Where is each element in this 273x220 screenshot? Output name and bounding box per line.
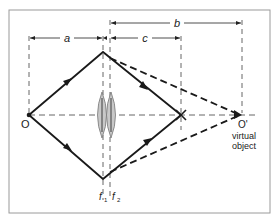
ray-arrow-lower-left xyxy=(63,143,72,151)
label-virtual-caption-1: virtual xyxy=(232,131,256,141)
dimension-c: c xyxy=(111,32,180,44)
label-a: a xyxy=(64,32,70,44)
label-f2-sub: 2 xyxy=(117,197,121,203)
lens-1 xyxy=(98,92,107,138)
label-virtual-object-point: O' xyxy=(238,119,248,130)
dimension-b: b xyxy=(111,17,241,29)
optics-diagram: b a c xyxy=(0,0,273,220)
gap-arrow xyxy=(103,36,107,40)
label-c: c xyxy=(142,32,148,44)
dimension-a: a xyxy=(30,32,102,44)
label-virtual-caption-2: object xyxy=(232,141,257,151)
label-f2: f xyxy=(112,191,116,202)
label-b: b xyxy=(174,17,180,29)
object-point xyxy=(27,113,32,118)
label-f1-sub: 1 xyxy=(104,197,108,203)
label-object-point: O xyxy=(21,118,30,130)
label-f1: f xyxy=(99,191,103,202)
lens-2 xyxy=(107,92,116,138)
virtual-object-arrow xyxy=(234,110,242,119)
